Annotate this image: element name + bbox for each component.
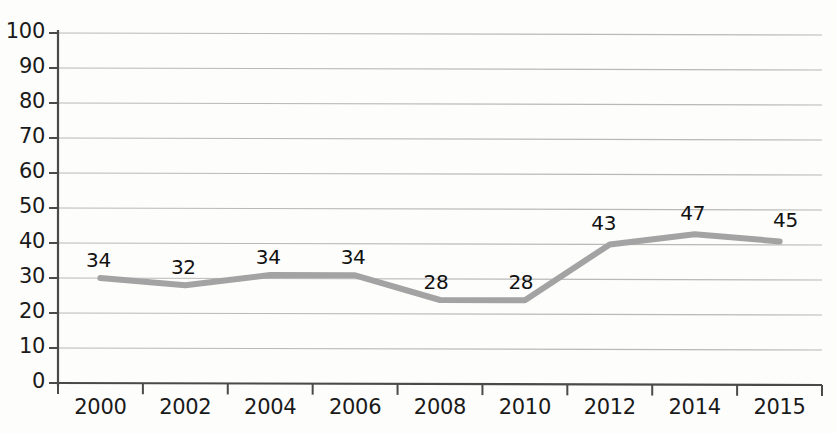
y-axis-tick-label: 0 — [32, 369, 45, 393]
gridline — [58, 103, 822, 105]
chart-figure: 0102030405060708090100 20002002200420062… — [0, 0, 837, 433]
data-point-label: 28 — [406, 270, 466, 294]
x-axis-tick-label: 2002 — [143, 395, 228, 419]
x-axis-tick-label: 2014 — [652, 395, 737, 419]
y-axis-tick-label: 80 — [19, 89, 45, 113]
data-point-label: 47 — [663, 201, 723, 225]
y-axis-tick-label: 100 — [6, 19, 45, 43]
data-point-label: 45 — [756, 208, 816, 232]
y-axis-tick-label: 60 — [19, 159, 45, 183]
gridline — [58, 33, 822, 35]
x-axis-tick-label: 2000 — [58, 395, 143, 419]
x-axis-tick-label: 2006 — [313, 395, 398, 419]
x-axis-tick-label: 2010 — [482, 395, 567, 419]
data-point-label: 28 — [491, 270, 551, 294]
x-axis-tick-label: 2008 — [398, 395, 483, 419]
gridline — [58, 68, 822, 70]
data-point-label: 32 — [153, 255, 213, 279]
x-axis-tick-label: 2015 — [737, 395, 822, 419]
x-axis-tick-label: 2004 — [228, 395, 313, 419]
gridline — [58, 243, 822, 245]
data-point-label: 43 — [574, 211, 634, 235]
y-axis-tick-label: 70 — [19, 124, 45, 148]
y-axis-tick-label: 50 — [19, 194, 45, 218]
y-axis-tick-label: 20 — [19, 299, 45, 323]
y-axis-tick-label: 40 — [19, 229, 45, 253]
data-point-label: 34 — [323, 245, 383, 269]
data-point-label: 34 — [238, 245, 298, 269]
y-axis-tick-label: 30 — [19, 264, 45, 288]
gridline — [58, 313, 822, 315]
gridline — [58, 383, 822, 385]
gridline — [58, 348, 822, 350]
data-point-label: 34 — [68, 248, 128, 272]
y-axis-tick-label: 90 — [19, 54, 45, 78]
y-axis-tick-label: 10 — [19, 334, 45, 358]
gridline — [58, 173, 822, 175]
gridline — [58, 138, 822, 140]
x-axis-tick-label: 2012 — [567, 395, 652, 419]
chart-plot-area: 0102030405060708090100 20002002200420062… — [0, 0, 837, 433]
